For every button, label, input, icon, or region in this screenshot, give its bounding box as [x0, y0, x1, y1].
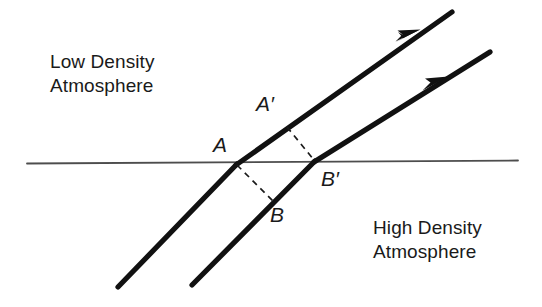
density-boundary-line [27, 161, 518, 164]
point-label-a: A [213, 133, 227, 157]
refraction-diagram: Low Density Atmosphere High Density Atmo… [0, 0, 542, 307]
high-density-atmosphere-label: High Density Atmosphere [373, 216, 482, 264]
ray-2-incident-segment [192, 161, 315, 285]
wavefront-refracted-ap-bp [287, 127, 314, 160]
ray-2-refracted-segment [314, 52, 490, 162]
point-label-a-prime: A′ [256, 92, 274, 116]
low-density-atmosphere-label: Low Density Atmosphere [50, 50, 155, 98]
ray-1-incident-segment [118, 164, 237, 287]
wavefront-incident-ab [237, 165, 273, 201]
point-label-b: B [270, 203, 284, 227]
point-label-b-prime: B′ [321, 167, 339, 191]
